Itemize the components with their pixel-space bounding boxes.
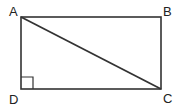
vertex-label-c: C <box>163 91 172 106</box>
vertex-label-b: B <box>163 4 172 19</box>
vertex-label-a: A <box>9 4 18 19</box>
rectangle-diagram: A B C D <box>0 0 178 112</box>
right-angle-marker <box>21 77 33 89</box>
diagram-canvas: A B C D <box>0 0 178 112</box>
vertex-label-d: D <box>9 92 18 107</box>
diagonal-ac <box>21 17 161 89</box>
